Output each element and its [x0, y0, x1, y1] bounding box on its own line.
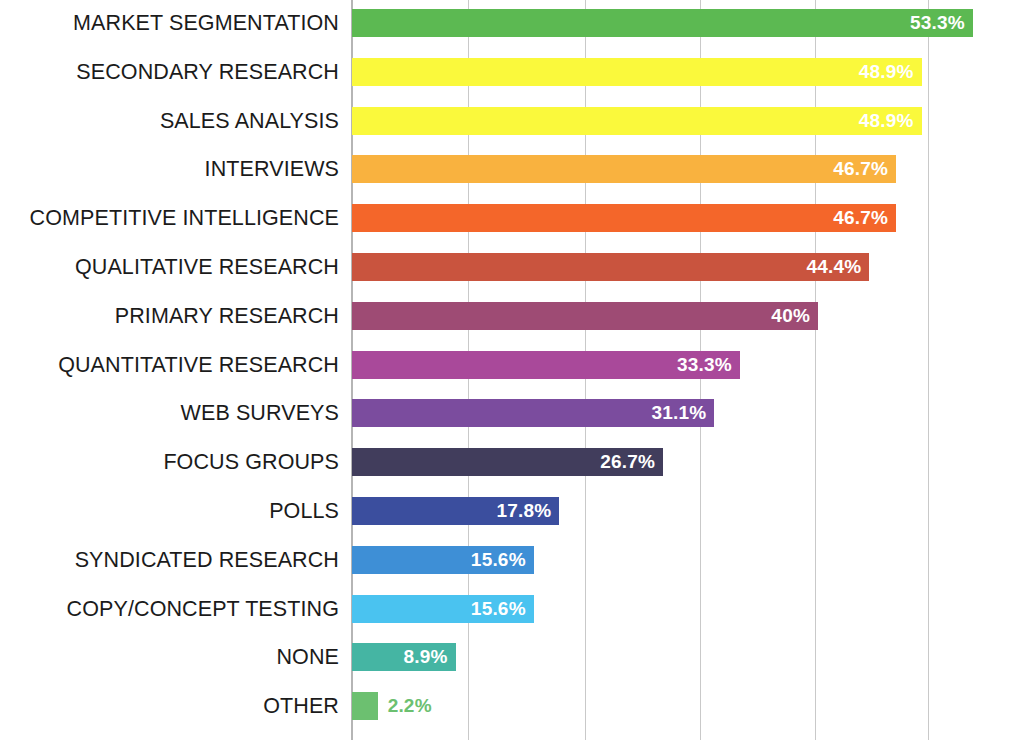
- bar-value-label: 26.7%: [600, 448, 655, 476]
- bar-value-label: 46.7%: [833, 204, 888, 232]
- bar-rows: MARKET SEGMENTATION53.3%SECONDARY RESEAR…: [0, 0, 1029, 740]
- bar-value-label: 31.1%: [651, 399, 706, 427]
- bar-value-label: 46.7%: [833, 155, 888, 183]
- bar-row: COMPETITIVE INTELLIGENCE46.7%: [0, 195, 1029, 241]
- category-label: OTHER: [263, 683, 339, 729]
- bar[interactable]: [352, 253, 869, 281]
- bar[interactable]: [352, 107, 922, 135]
- bar-row: MARKET SEGMENTATION53.3%: [0, 0, 1029, 46]
- bar-container: 48.9%: [352, 58, 922, 86]
- bar[interactable]: [352, 9, 973, 37]
- bar-row: INTERVIEWS46.7%: [0, 146, 1029, 192]
- bar-container: 53.3%: [352, 9, 973, 37]
- bar-row: COPY/CONCEPT TESTING15.6%: [0, 586, 1029, 632]
- bar-container: 15.6%: [352, 546, 534, 574]
- category-label: COPY/CONCEPT TESTING: [67, 586, 339, 632]
- category-label: SECONDARY RESEARCH: [76, 49, 339, 95]
- bar-row: QUALITATIVE RESEARCH44.4%: [0, 244, 1029, 290]
- bar-value-label: 15.6%: [471, 546, 526, 574]
- bar-container: 33.3%: [352, 351, 740, 379]
- bar-row: POLLS17.8%: [0, 488, 1029, 534]
- bar-value-label: 8.9%: [404, 643, 448, 671]
- bar-container: 15.6%: [352, 595, 534, 623]
- bar-row: OTHER2.2%: [0, 683, 1029, 729]
- bar[interactable]: [352, 692, 378, 720]
- category-label: NONE: [276, 634, 339, 680]
- bar-value-label: 44.4%: [806, 253, 861, 281]
- bar[interactable]: [352, 302, 818, 330]
- category-label: WEB SURVEYS: [181, 390, 339, 436]
- category-label: SYNDICATED RESEARCH: [75, 537, 339, 583]
- bar-container: 44.4%: [352, 253, 869, 281]
- bar-row: SYNDICATED RESEARCH15.6%: [0, 537, 1029, 583]
- bar-container: 40%: [352, 302, 818, 330]
- bar[interactable]: [352, 58, 922, 86]
- bar-container: 46.7%: [352, 204, 896, 232]
- bar-container: 17.8%: [352, 497, 559, 525]
- category-label: PRIMARY RESEARCH: [115, 293, 339, 339]
- bar-value-label: 53.3%: [910, 9, 965, 37]
- bar-container: 26.7%: [352, 448, 663, 476]
- bar-container: 8.9%: [352, 643, 456, 671]
- category-label: POLLS: [269, 488, 339, 534]
- bar-container: 31.1%: [352, 399, 714, 427]
- bar-row: WEB SURVEYS31.1%: [0, 390, 1029, 436]
- bar-row: NONE8.9%: [0, 634, 1029, 680]
- category-label: MARKET SEGMENTATION: [73, 0, 339, 46]
- category-label: INTERVIEWS: [205, 146, 339, 192]
- bar-value-label: 33.3%: [677, 351, 732, 379]
- bar-container: 2.2%: [352, 692, 378, 720]
- bar-row: SALES ANALYSIS48.9%: [0, 98, 1029, 144]
- bar-value-label: 48.9%: [859, 107, 914, 135]
- bar-value-label: 40%: [771, 302, 810, 330]
- bar-container: 48.9%: [352, 107, 922, 135]
- category-label: COMPETITIVE INTELLIGENCE: [30, 195, 339, 241]
- bar-value-label: 15.6%: [471, 595, 526, 623]
- bar[interactable]: [352, 155, 896, 183]
- bar-value-label: 17.8%: [496, 497, 551, 525]
- bar[interactable]: [352, 204, 896, 232]
- bar-row: PRIMARY RESEARCH40%: [0, 293, 1029, 339]
- bar-row: FOCUS GROUPS26.7%: [0, 439, 1029, 485]
- category-label: QUALITATIVE RESEARCH: [75, 244, 339, 290]
- category-label: QUANTITATIVE RESEARCH: [58, 342, 339, 388]
- category-label: FOCUS GROUPS: [163, 439, 339, 485]
- bar-chart: MARKET SEGMENTATION53.3%SECONDARY RESEAR…: [0, 0, 1029, 740]
- bar-container: 46.7%: [352, 155, 896, 183]
- bar-value-label: 48.9%: [859, 58, 914, 86]
- bar-row: SECONDARY RESEARCH48.9%: [0, 49, 1029, 95]
- bar-value-label: 2.2%: [388, 692, 432, 720]
- category-label: SALES ANALYSIS: [160, 98, 339, 144]
- bar-row: QUANTITATIVE RESEARCH33.3%: [0, 342, 1029, 388]
